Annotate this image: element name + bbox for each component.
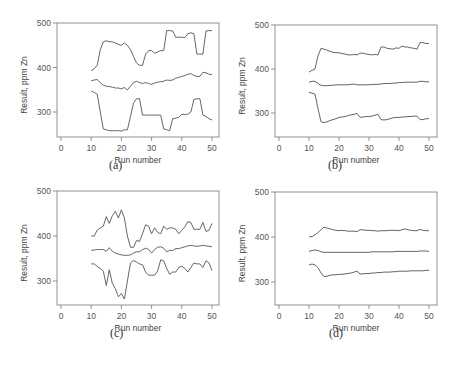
y-tick-label: 400 [37, 231, 51, 241]
x-tick-label: 40 [394, 143, 404, 153]
x-tick-label: 0 [277, 311, 282, 321]
plot-frame [275, 192, 437, 305]
y-tick-label: 500 [255, 187, 269, 197]
series-line-lower-limit [91, 91, 212, 131]
x-tick-label: 50 [207, 143, 217, 153]
y-axis-label: Result, ppm Zn [237, 224, 247, 282]
y-tick-label: 300 [255, 108, 269, 118]
x-tick-label: 40 [394, 311, 404, 321]
x-tick-label: 30 [147, 143, 157, 153]
y-tick-label: 300 [255, 277, 269, 287]
series-line-upper-limit [309, 227, 429, 237]
plot-frame [275, 25, 437, 137]
series-line-lower-limit [309, 92, 429, 122]
x-tick-label: 50 [424, 311, 434, 321]
y-tick-label: 300 [37, 276, 51, 286]
series-line-lower-limit [309, 264, 429, 277]
series-line-lower-limit [91, 260, 212, 299]
x-tick-label: 40 [177, 311, 187, 321]
y-axis-label: Result, ppm Zn [19, 56, 29, 114]
chart-c-plot: 30040050001020304050Run numberResult, pp… [0, 168, 226, 352]
y-tick-label: 500 [37, 18, 51, 28]
chart-panel-a: 30040050001020304050Run numberResult, pp… [0, 0, 226, 184]
y-axis-label: Result, ppm Zn [237, 57, 247, 115]
series-line-mean [309, 250, 429, 252]
plot-frame [57, 191, 219, 305]
y-axis-label: Result, ppm Zn [19, 224, 29, 282]
chart-panel-c: 30040050001020304050Run numberResult, pp… [0, 168, 226, 352]
series-line-upper-limit [309, 43, 429, 73]
x-tick-label: 10 [86, 311, 96, 321]
x-tick-label: 40 [177, 143, 187, 153]
series-line-upper-limit [91, 210, 212, 247]
x-tick-label: 50 [207, 311, 217, 321]
x-tick-label: 10 [304, 143, 314, 153]
x-tick-label: 20 [117, 143, 127, 153]
series-line-upper-limit [91, 31, 212, 71]
caption-d: (d) [329, 326, 343, 341]
y-tick-label: 400 [37, 63, 51, 73]
y-tick-label: 400 [255, 232, 269, 242]
x-tick-label: 10 [304, 311, 314, 321]
chart-panel-d: 30040050001020304050Run numberResult, pp… [226, 168, 452, 352]
x-tick-label: 20 [117, 311, 127, 321]
series-line-mean [309, 81, 429, 85]
chart-d-plot: 30040050001020304050Run numberResult, pp… [226, 168, 452, 352]
x-tick-label: 20 [334, 143, 344, 153]
y-tick-label: 300 [37, 107, 51, 117]
x-tick-label: 0 [59, 311, 64, 321]
x-tick-label: 30 [147, 311, 157, 321]
x-tick-label: 30 [364, 143, 374, 153]
series-line-mean [91, 245, 212, 255]
chart-panel-b: 30040050001020304050Run numberResult, pp… [226, 0, 452, 184]
y-tick-label: 400 [255, 64, 269, 74]
series-line-mean [91, 72, 212, 89]
x-tick-label: 20 [334, 311, 344, 321]
chart-a-plot: 30040050001020304050Run numberResult, pp… [0, 0, 226, 184]
x-tick-label: 50 [424, 143, 434, 153]
x-tick-label: 10 [86, 143, 96, 153]
x-tick-label: 30 [364, 311, 374, 321]
caption-c: (c) [110, 326, 123, 341]
chart-b-plot: 30040050001020304050Run numberResult, pp… [226, 0, 452, 184]
x-tick-label: 0 [277, 143, 282, 153]
x-tick-label: 0 [59, 143, 64, 153]
y-tick-label: 500 [255, 20, 269, 30]
y-tick-label: 500 [37, 186, 51, 196]
